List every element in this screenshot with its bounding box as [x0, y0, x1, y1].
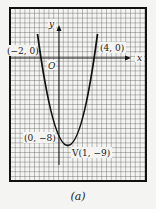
svg-text:V(1, −9): V(1, −9): [71, 148, 110, 158]
svg-text:(4, 0): (4, 0): [100, 43, 124, 53]
label-y-intercept: (0, −8): [23, 132, 56, 143]
svg-text:(0, −8): (0, −8): [24, 133, 56, 143]
label-origin: O: [47, 60, 56, 71]
svg-text:x: x: [137, 53, 142, 63]
label-root-left: (−2, 0): [6, 45, 39, 56]
svg-text:O: O: [48, 61, 56, 71]
parabola-graph: y x O (−2, 0) (4, 0) (0, −8) V(1, −9): [0, 0, 156, 209]
svg-text:y: y: [48, 19, 55, 29]
svg-text:(−2, 0): (−2, 0): [7, 46, 39, 56]
label-x-axis: x: [135, 53, 144, 63]
figure-caption: (a): [0, 190, 156, 203]
label-vertex: V(1, −9): [71, 147, 112, 158]
label-root-right: (4, 0): [99, 42, 126, 53]
label-y-axis: y: [48, 19, 56, 29]
